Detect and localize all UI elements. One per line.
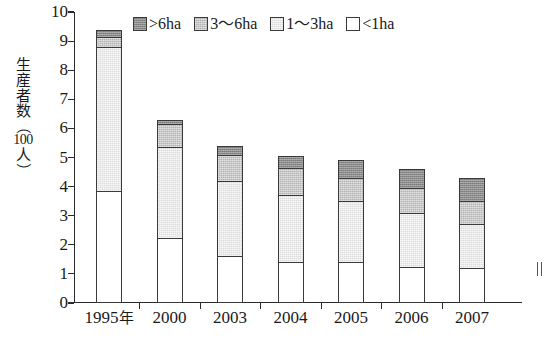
y-tick-6 bbox=[68, 128, 74, 129]
y-tick-7 bbox=[68, 99, 74, 100]
y-tick-label-9: 9 bbox=[46, 32, 68, 49]
y-tick-5 bbox=[68, 157, 74, 158]
bar-segment-2005-gt6[interactable] bbox=[338, 160, 364, 177]
bar-segment-2003-lt1[interactable] bbox=[217, 256, 243, 303]
y-tick-4 bbox=[68, 186, 74, 187]
bar-segment-2006-s3_6[interactable] bbox=[399, 188, 425, 213]
bar-segment-2000-lt1[interactable] bbox=[157, 238, 183, 303]
y-tick-3 bbox=[68, 215, 74, 216]
y-tick-8 bbox=[68, 70, 74, 71]
y-axis-title-char-1: 生 bbox=[6, 58, 40, 73]
y-axis-tick-labels: 012345678910 bbox=[40, 12, 68, 303]
bar-segment-2005-s1_3[interactable] bbox=[338, 201, 364, 262]
y-axis-title-char-3: 者 bbox=[6, 89, 40, 104]
x-tick-label-2007: 2007 bbox=[432, 308, 512, 328]
x-axis-tick-labels: 1995年200020032004200520062007 bbox=[74, 308, 522, 336]
bar-segment-2007-s3_6[interactable] bbox=[459, 201, 485, 224]
y-tick-0 bbox=[68, 302, 74, 303]
bar-segment-2003-s3_6[interactable] bbox=[217, 155, 243, 181]
bar-segment-2000-s3_6[interactable] bbox=[157, 124, 183, 147]
bar-segment-2007-s1_3[interactable] bbox=[459, 224, 485, 268]
y-tick-label-3: 3 bbox=[46, 207, 68, 224]
bar-segment-1995-s1_3[interactable] bbox=[96, 47, 122, 191]
bar-segment-2005-lt1[interactable] bbox=[338, 262, 364, 303]
bar-segment-2004-lt1[interactable] bbox=[278, 262, 304, 303]
y-tick-2 bbox=[68, 244, 74, 245]
y-axis-unit-paren-close: ） bbox=[16, 153, 30, 187]
bar-segment-2007-gt6[interactable] bbox=[459, 178, 485, 201]
bar-segment-2005-s3_6[interactable] bbox=[338, 178, 364, 201]
bar-segment-2004-gt6[interactable] bbox=[278, 156, 304, 168]
bar-segment-2006-lt1[interactable] bbox=[399, 267, 425, 303]
y-axis-line bbox=[74, 12, 75, 303]
y-tick-label-4: 4 bbox=[46, 178, 68, 195]
bar-segment-2004-s1_3[interactable] bbox=[278, 195, 304, 262]
bar-segment-1995-gt6[interactable] bbox=[96, 30, 122, 37]
bar-2003[interactable] bbox=[217, 146, 243, 303]
bar-2005[interactable] bbox=[338, 160, 364, 303]
stacked-bar-chart: 生 産 者 数 （ 100 人 ） 012345678910 >6ha3〜6ha… bbox=[0, 0, 544, 358]
bar-segment-2006-s1_3[interactable] bbox=[399, 213, 425, 267]
bar-1995[interactable] bbox=[96, 29, 122, 303]
bar-segment-2003-s1_3[interactable] bbox=[217, 181, 243, 257]
y-tick-label-6: 6 bbox=[46, 119, 68, 136]
y-tick-label-0: 0 bbox=[46, 294, 68, 311]
bar-segment-1995-lt1[interactable] bbox=[96, 191, 122, 303]
y-tick-label-5: 5 bbox=[46, 149, 68, 166]
bar-segment-1995-s3_6[interactable] bbox=[96, 37, 122, 47]
bar-2004[interactable] bbox=[278, 156, 304, 303]
bar-segment-2006-gt6[interactable] bbox=[399, 169, 425, 188]
scan-edge-mark bbox=[537, 262, 542, 276]
bar-segment-2004-s3_6[interactable] bbox=[278, 168, 304, 196]
bar-segment-2003-gt6[interactable] bbox=[217, 146, 243, 155]
y-tick-label-2: 2 bbox=[46, 236, 68, 253]
y-axis-unit-paren-open: （ bbox=[16, 109, 30, 143]
y-tick-label-7: 7 bbox=[46, 90, 68, 107]
bar-2007[interactable] bbox=[459, 178, 485, 303]
y-tick-9 bbox=[68, 41, 74, 42]
bar-segment-2007-lt1[interactable] bbox=[459, 268, 485, 303]
bar-2006[interactable] bbox=[399, 169, 425, 303]
y-axis-title-char-2: 産 bbox=[6, 73, 40, 88]
y-axis-title: 生 産 者 数 （ 100 人 ） bbox=[6, 58, 40, 177]
y-tick-10 bbox=[68, 11, 74, 12]
y-tick-label-8: 8 bbox=[46, 61, 68, 78]
bar-2000[interactable] bbox=[157, 120, 183, 303]
bar-segment-2000-s1_3[interactable] bbox=[157, 147, 183, 237]
y-tick-label-1: 1 bbox=[46, 265, 68, 282]
x-tick-label-year-value: 1995 bbox=[85, 308, 119, 327]
y-tick-label-10: 10 bbox=[46, 3, 68, 20]
plot-area bbox=[74, 12, 522, 303]
y-tick-1 bbox=[68, 273, 74, 274]
